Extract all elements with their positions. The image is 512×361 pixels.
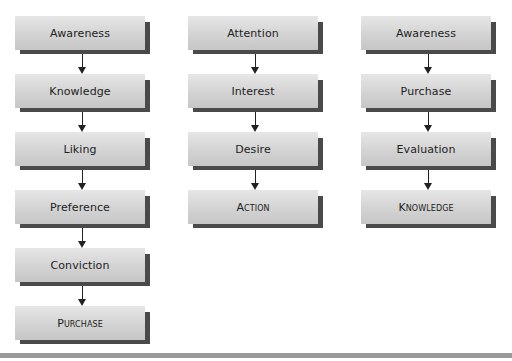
- stage-label: Interest: [188, 74, 318, 108]
- arrow-down-icon: [424, 170, 433, 190]
- stage-node: Preference: [15, 190, 145, 224]
- stage-node: Attention: [188, 16, 318, 50]
- arrow-down-icon: [251, 54, 260, 74]
- stage-label: Purchase: [15, 306, 145, 340]
- arrow-down-icon: [251, 112, 260, 132]
- stage-node: Awareness: [15, 16, 145, 50]
- stage-label: Preference: [15, 190, 145, 224]
- stage-node: Liking: [15, 132, 145, 166]
- stage-node: Awareness: [361, 16, 491, 50]
- arrow-down-icon: [78, 54, 87, 74]
- stage-label: Liking: [15, 132, 145, 166]
- arrow-down-icon: [78, 228, 87, 248]
- arrow-down-icon: [251, 170, 260, 190]
- stage-node: Evaluation: [361, 132, 491, 166]
- stage-label: Attention: [188, 16, 318, 50]
- stage-node: Desire: [188, 132, 318, 166]
- stage-label: Awareness: [361, 16, 491, 50]
- stage-node: Purchase: [361, 74, 491, 108]
- stage-node: Knowledge: [361, 190, 491, 224]
- stage-label: Desire: [188, 132, 318, 166]
- stage-node: Interest: [188, 74, 318, 108]
- stage-node: Action: [188, 190, 318, 224]
- stage-node: Conviction: [15, 248, 145, 282]
- stage-node: Knowledge: [15, 74, 145, 108]
- stage-label: Awareness: [15, 16, 145, 50]
- stage-label: Evaluation: [361, 132, 491, 166]
- stage-label: Knowledge: [361, 190, 491, 224]
- stage-label: Conviction: [15, 248, 145, 282]
- arrow-down-icon: [424, 54, 433, 74]
- arrow-down-icon: [424, 112, 433, 132]
- stage-label: Knowledge: [15, 74, 145, 108]
- bottom-divider-bar: [0, 353, 512, 358]
- stage-label: Action: [188, 190, 318, 224]
- arrow-down-icon: [78, 112, 87, 132]
- stage-node: Purchase: [15, 306, 145, 340]
- stage-label: Purchase: [361, 74, 491, 108]
- arrow-down-icon: [78, 170, 87, 190]
- arrow-down-icon: [78, 286, 87, 306]
